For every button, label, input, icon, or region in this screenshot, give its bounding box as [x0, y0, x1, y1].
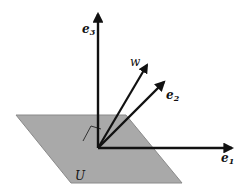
label-u: U	[75, 169, 86, 183]
label-e1: e1	[221, 151, 234, 166]
label-w: w	[130, 55, 141, 69]
label-e3: e3	[82, 22, 96, 37]
diagram-canvas: e3 w e2 e1 U	[0, 0, 246, 193]
label-e2: e2	[166, 88, 180, 103]
